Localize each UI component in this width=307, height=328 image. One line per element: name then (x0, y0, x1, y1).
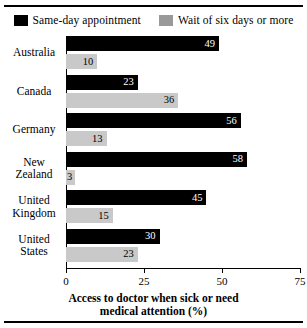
bar-value-label: 23 (123, 249, 138, 259)
bar-same-day: 58 (66, 152, 247, 167)
category-label: Germany (2, 123, 66, 136)
bar-same-day: 23 (66, 75, 138, 90)
x-axis-tick-label: 25 (129, 275, 159, 287)
category-label-line1: United (2, 233, 66, 246)
x-axis-tick (66, 268, 67, 273)
x-axis-tick-label: 50 (207, 275, 237, 287)
chart-legend: Same-day appointment Wait of six days or… (0, 15, 307, 26)
category-label-line1: Germany (2, 123, 66, 136)
bar-spacer (66, 51, 300, 54)
bar-wait-six-days: 36 (66, 93, 178, 108)
x-axis-title: Access to doctor when sick or need medic… (0, 292, 307, 318)
category-label-line2: Kingdom (2, 207, 66, 220)
x-axis-title-line1: Access to doctor when sick or need (0, 292, 307, 305)
category-label: UnitedStates (2, 233, 66, 258)
bar-group: 5613 (66, 113, 300, 146)
bar-wait-six-days: 3 (66, 170, 75, 185)
x-axis-tick (300, 268, 301, 273)
bar-value-label: 45 (192, 193, 207, 203)
category-label-line1: Australia (2, 46, 66, 59)
bar-group: 3023 (66, 229, 300, 262)
bar-same-day: 30 (66, 229, 160, 244)
bar-group: 4910 (66, 36, 300, 69)
category-label: Australia (2, 46, 66, 59)
legend-swatch-wait-six-days-icon (159, 15, 173, 26)
category-label-line2: States (2, 245, 66, 258)
bar-value-label: 15 (98, 211, 113, 221)
bar-same-day: 49 (66, 36, 219, 51)
category-label: UnitedKingdom (2, 194, 66, 219)
bottom-rule (4, 321, 303, 323)
top-rule (4, 5, 303, 7)
bar-wait-six-days: 13 (66, 131, 107, 146)
category-label: Canada (2, 85, 66, 98)
x-axis-title-line2: medical attention (%) (0, 305, 307, 318)
bar-value-label: 3 (67, 172, 72, 182)
x-axis-tick (222, 268, 223, 273)
legend-item-same-day: Same-day appointment (14, 15, 141, 26)
plot-area: 49102336561358345153023 (66, 36, 300, 268)
bar-value-label: 49 (204, 39, 219, 49)
bar-value-label: 13 (92, 134, 107, 144)
bar-spacer (66, 167, 300, 170)
bar-group: 583 (66, 152, 300, 185)
bar-wait-six-days: 10 (66, 54, 97, 69)
x-axis-line (66, 268, 300, 269)
x-axis-tick-label: 0 (51, 275, 81, 287)
category-label-line1: Canada (2, 85, 66, 98)
legend-swatch-same-day-icon (14, 15, 28, 26)
bar-wait-six-days: 23 (66, 247, 138, 262)
bar-group: 2336 (66, 75, 300, 108)
category-label-line2: Zealand (2, 168, 66, 181)
x-axis-tick (144, 268, 145, 273)
bar-value-label: 58 (232, 154, 247, 164)
category-label-line1: United (2, 194, 66, 207)
legend-item-wait-six-days: Wait of six days or more (159, 15, 294, 26)
category-label: NewZealand (2, 156, 66, 181)
legend-label-same-day: Same-day appointment (33, 15, 141, 26)
bar-value-label: 36 (164, 95, 179, 105)
legend-label-wait-six-days: Wait of six days or more (178, 15, 294, 26)
bar-same-day: 56 (66, 113, 241, 128)
bar-value-label: 23 (123, 77, 138, 87)
bar-wait-six-days: 15 (66, 208, 113, 223)
category-label-line1: New (2, 156, 66, 169)
bar-same-day: 45 (66, 190, 206, 205)
bar-group: 4515 (66, 190, 300, 223)
x-axis-tick-label: 75 (285, 275, 307, 287)
bar-value-label: 56 (226, 116, 241, 126)
bar-value-label: 10 (83, 57, 98, 67)
bar-value-label: 30 (145, 231, 160, 241)
